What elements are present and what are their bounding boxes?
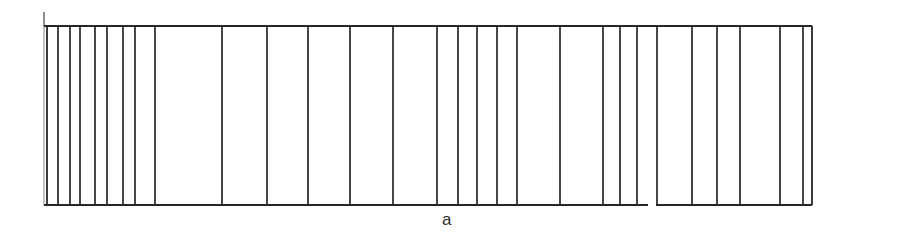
line-spectrum-diagram: [0, 0, 901, 239]
axis-label-a: a: [442, 210, 452, 230]
figure-container: a: [0, 0, 901, 239]
diagram-ink-layer: [44, 12, 812, 205]
